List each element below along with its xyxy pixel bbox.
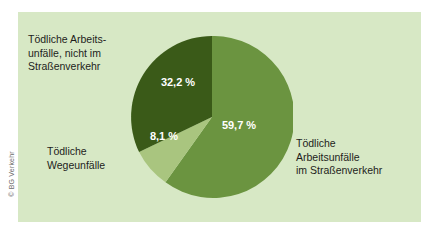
pie-value-commute: 8,1 % bbox=[150, 130, 178, 142]
callout-label-road: Tödliche Arbeitsunfälle im Straßenverkeh… bbox=[296, 137, 424, 178]
pie-value-nonroad: 32,2 % bbox=[161, 76, 195, 88]
callout-label-nonroad: Tödliche Arbeits- unfälle, nicht im Stra… bbox=[28, 33, 158, 74]
pie-chart-figure: © BG Verkehr 32,2 % 8,1 % 59,7 % Tödlich… bbox=[0, 0, 436, 237]
pie-value-road: 59,7 % bbox=[222, 119, 256, 131]
callout-label-commute: Tödliche Wegeunfälle bbox=[47, 145, 157, 172]
copyright-credit: © BG Verkehr bbox=[6, 144, 18, 204]
